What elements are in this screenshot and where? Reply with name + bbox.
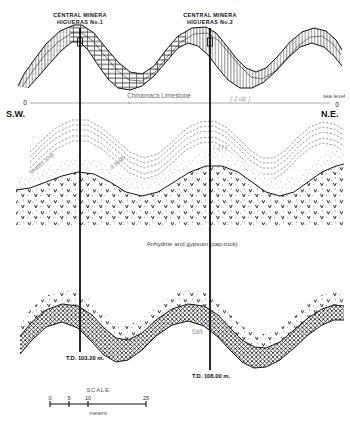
well-2-name-line1: CENTRAL MINERA [183, 12, 236, 18]
direction-label-ne: N.E. [321, 109, 339, 119]
well-2-td-label: T.D. 108.00 m. [192, 373, 230, 379]
datum-zero-left: 0 [23, 99, 27, 106]
scale-tick-label-25: 25 [143, 395, 149, 401]
well-1-td-label: T.D. 103.20 m. [66, 355, 104, 361]
scale-title: SCALE [86, 387, 109, 393]
anhydrite-gypsum-label: Anhydrite and gypsum (cap-rock) [146, 240, 237, 247]
scale-unit-label: meters [89, 410, 107, 416]
well-1-name-line1: CENTRAL MINERA [53, 12, 106, 18]
well-label-1: CENTRAL MINERA HIGUERAS No.1 [53, 12, 106, 25]
sea-level-label: sea level [323, 93, 345, 99]
scale-tick-label-10: 10 [85, 395, 91, 401]
datum-zero-right: 0 [335, 101, 339, 108]
scale-tick-label-0: 0 [48, 395, 51, 401]
chinamaca-limestone-label: Chinamaca Limestone [127, 92, 191, 99]
well-label-2: CENTRAL MINERA HIGUERAS No.2 [183, 12, 236, 25]
scale-tick-label-5: 5 [67, 395, 70, 401]
geologic-cross-section: CENTRAL MINERA HIGUERAS No.1 CENTRAL MIN… [0, 0, 350, 427]
direction-label-sw: S.W. [6, 109, 25, 119]
well-2-name-line2: HIGUERAS No.2 [187, 19, 233, 25]
well-1-name-line2: HIGUERAS No.1 [57, 19, 103, 25]
symbol-upper-jub: ( J ub ) [230, 95, 250, 103]
salt-label: Salt [191, 328, 202, 335]
